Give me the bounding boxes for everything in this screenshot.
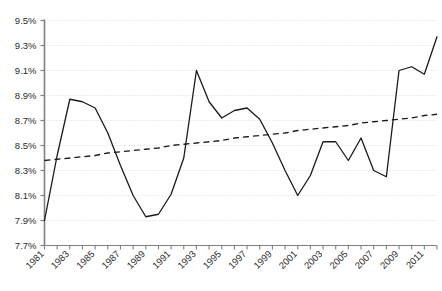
y-axis-tick-label: 8.5% xyxy=(15,140,37,151)
y-axis-tick-label: 7.9% xyxy=(15,215,37,226)
y-axis-tick-label: 8.1% xyxy=(15,190,37,201)
y-axis-tick-label: 9.1% xyxy=(15,65,37,76)
y-axis-tick-label: 8.9% xyxy=(15,90,37,101)
y-axis-tick-label: 8.3% xyxy=(15,165,37,176)
y-axis-tick-label: 9.3% xyxy=(15,40,37,51)
y-axis-tick-label: 9.5% xyxy=(15,15,37,26)
line-chart: 7.7%7.9%8.1%8.3%8.5%8.7%8.9%9.1%9.3%9.5%… xyxy=(0,0,442,291)
chart-canvas: 7.7%7.9%8.1%8.3%8.5%8.7%8.9%9.1%9.3%9.5%… xyxy=(0,0,442,291)
y-axis-tick-label: 8.7% xyxy=(15,115,37,126)
y-axis-tick-label: 7.7% xyxy=(15,240,37,251)
